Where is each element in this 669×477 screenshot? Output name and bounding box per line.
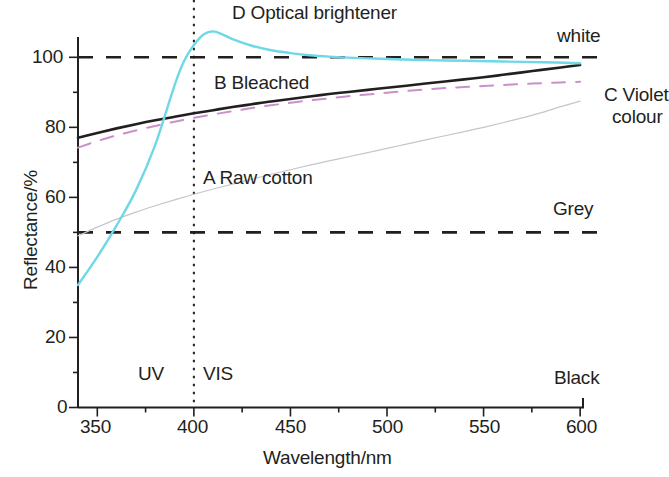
xtick-label-600: 600 <box>566 416 597 438</box>
y-axis-title: Reflectance/% <box>20 170 42 290</box>
zone-label-uv: UV <box>138 363 164 385</box>
annotation-optical-brightener: D Optical brightener <box>232 2 397 24</box>
zone-label-vis: VIS <box>203 363 233 385</box>
series-c-violet-colour <box>78 82 580 148</box>
reference-label-grey: Grey <box>553 198 593 220</box>
xtick-label-350: 350 <box>80 416 111 438</box>
xtick-label-550: 550 <box>469 416 500 438</box>
annotation-violet-colour-line2: colour <box>612 106 663 128</box>
reference-label-black: Black <box>554 367 599 389</box>
xtick-label-400: 400 <box>177 416 208 438</box>
x-axis-ticks <box>97 408 580 417</box>
y-axis-ticks <box>69 57 78 407</box>
ytick-label-40: 40 <box>45 256 66 278</box>
ytick-label-80: 80 <box>45 116 66 138</box>
series-d-optical-brightener <box>78 31 580 285</box>
data-series <box>78 31 580 285</box>
ytick-label-0: 0 <box>57 396 67 418</box>
xtick-label-500: 500 <box>372 416 403 438</box>
x-axis-title: Wavelength/nm <box>263 447 392 469</box>
ytick-label-60: 60 <box>45 186 66 208</box>
ytick-label-20: 20 <box>45 326 66 348</box>
ytick-label-100: 100 <box>32 46 63 68</box>
reference-label-white: white <box>557 25 600 47</box>
annotation-raw-cotton: A Raw cotton <box>203 167 313 189</box>
annotation-violet-colour-line1: C Violet <box>604 84 669 106</box>
xtick-label-450: 450 <box>275 416 306 438</box>
annotation-bleached: B Bleached <box>214 72 309 94</box>
